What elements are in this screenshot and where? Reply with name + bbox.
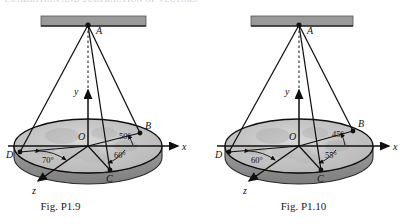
figure-p110: A O B C D x y z 45° 55° 60° Fig. P1.10 [205, 0, 410, 224]
label-axis-x: x [181, 141, 187, 152]
label-axis-y: y [73, 86, 79, 97]
point-D-dot [227, 150, 232, 155]
point-A-dot [85, 22, 90, 27]
figure-p19-drawing: A O B C D x y z 50° 60° 70° [0, 0, 205, 200]
figure-p110-caption: Fig. P1.10 [201, 200, 406, 212]
label-point-A: A [306, 25, 314, 36]
label-axis-x: x [392, 141, 398, 152]
point-B-dot [351, 129, 356, 134]
label-angle-70: 70° [42, 155, 54, 165]
label-angle-60: 60° [251, 155, 263, 165]
label-axis-y: y [284, 86, 290, 97]
label-point-C: C [317, 173, 324, 184]
point-C-dot [319, 168, 324, 173]
figure-p19: A O B C D x y z 50° 60° 70° Fig. P1.9 [0, 0, 205, 224]
figure-p110-drawing: A O B C D x y z 45° 55° 60° [205, 0, 410, 200]
label-point-B: B [145, 120, 151, 131]
label-angle-55: 55° [325, 150, 337, 160]
label-point-B: B [358, 118, 364, 129]
ceiling-support [41, 16, 146, 26]
label-point-A: A [95, 25, 103, 36]
point-B-dot [138, 131, 143, 136]
point-D-dot [18, 150, 23, 155]
label-axis-z: z [242, 185, 247, 196]
label-point-D: D [5, 149, 14, 160]
point-A-dot [296, 22, 301, 27]
label-point-C: C [106, 173, 113, 184]
point-C-dot [108, 168, 113, 173]
label-axis-z: z [31, 185, 36, 196]
label-angle-60: 60° [114, 150, 126, 160]
ceiling-support [251, 16, 353, 26]
label-angle-45: 45° [332, 129, 344, 139]
figure-sheet: 1.6 ADDITION AND SUBTRACTION OF VECTORS [0, 0, 410, 224]
label-point-O: O [289, 131, 296, 142]
label-point-D: D [214, 149, 223, 160]
label-point-O: O [78, 131, 85, 142]
label-angle-50: 50° [119, 131, 131, 141]
figure-p19-caption: Fig. P1.9 [0, 200, 163, 212]
